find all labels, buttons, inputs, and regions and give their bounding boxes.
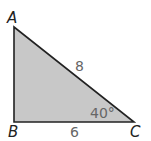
triangle-diagram: A B C 8 6 40°: [0, 0, 151, 141]
vertex-label-b: B: [8, 123, 18, 141]
hypotenuse-length-label: 8: [75, 58, 84, 74]
angle-c-label: 40°: [90, 105, 115, 121]
base-length-label: 6: [70, 124, 79, 140]
vertex-label-a: A: [6, 9, 17, 27]
triangle-abc: [14, 27, 134, 122]
vertex-label-c: C: [130, 123, 141, 141]
